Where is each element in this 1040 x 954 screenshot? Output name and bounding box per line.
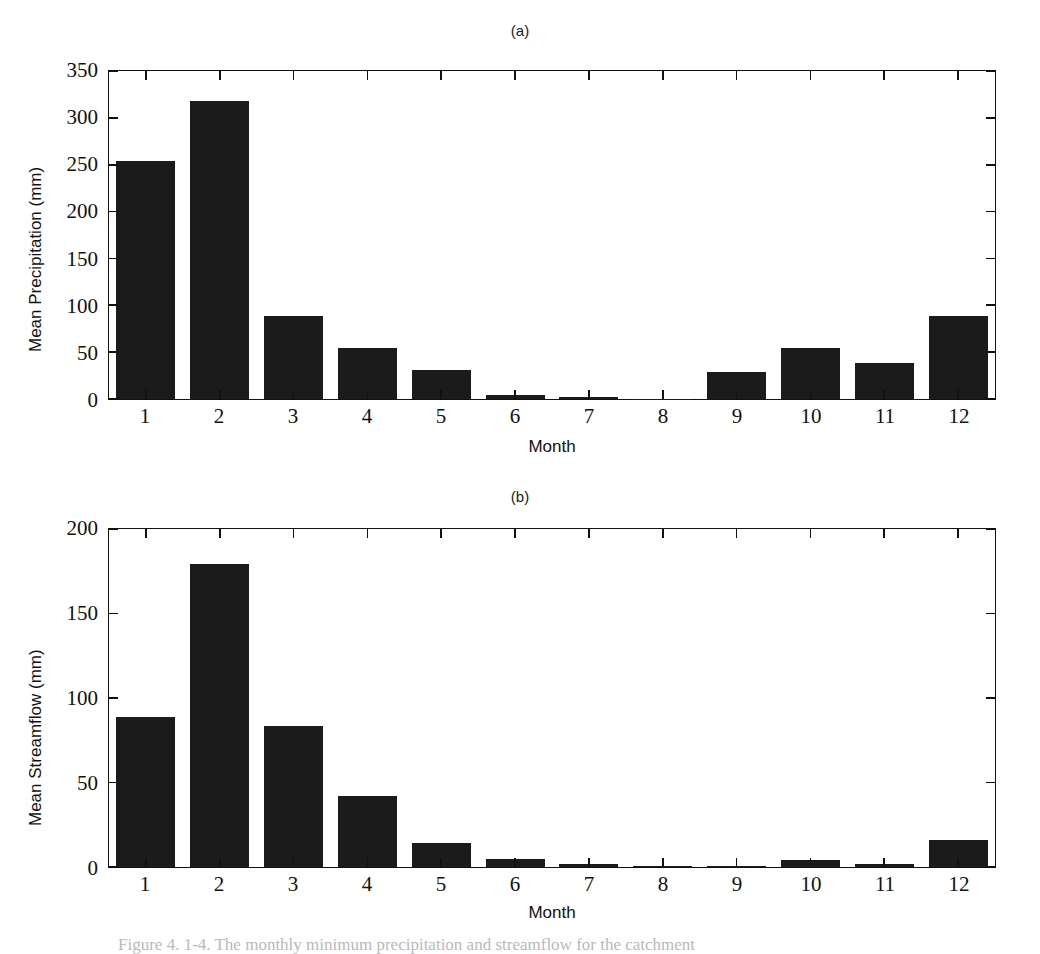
y-tick-left-150 <box>109 258 118 260</box>
x-tick-label-10: 10 <box>801 872 822 897</box>
y-tick-left-0 <box>109 398 118 400</box>
x-tick-bottom-1 <box>145 858 147 867</box>
x-tick-bottom-10 <box>810 858 812 867</box>
y-tick-label-100: 100 <box>67 686 99 711</box>
x-tick-bottom-4 <box>367 858 369 867</box>
x-tick-label-11: 11 <box>875 404 895 429</box>
x-tick-label-6: 6 <box>510 404 521 429</box>
x-tick-label-4: 4 <box>362 872 373 897</box>
y-tick-right-300 <box>986 117 995 119</box>
x-tick-label-2: 2 <box>214 404 225 429</box>
x-tick-top-2 <box>219 71 221 80</box>
panel-label-b: (b) <box>0 488 1040 505</box>
x-tick-top-1 <box>145 529 147 538</box>
y-tick-label-200: 200 <box>67 199 99 224</box>
y-axis-tick-labels-b: 050100150200 <box>2 528 98 868</box>
x-tick-top-11 <box>883 529 885 538</box>
y-axis-tick-labels-a: 050100150200250300350 <box>2 70 98 400</box>
x-tick-bottom-10 <box>810 390 812 399</box>
x-tick-label-5: 5 <box>436 404 447 429</box>
x-tick-label-7: 7 <box>584 404 595 429</box>
figure-container: (a) 050100150200250300350 Mean Precipita… <box>0 0 1040 954</box>
x-tick-bottom-6 <box>514 390 516 399</box>
y-tick-left-200 <box>109 211 118 213</box>
y-tick-right-100 <box>986 304 995 306</box>
y-tick-label-150: 150 <box>67 246 99 271</box>
panel-label-a: (a) <box>0 22 1040 39</box>
y-tick-right-0 <box>986 398 995 400</box>
y-tick-left-50 <box>109 351 118 353</box>
x-tick-bottom-9 <box>736 390 738 399</box>
x-tick-label-11: 11 <box>875 872 895 897</box>
x-tick-top-11 <box>883 71 885 80</box>
x-tick-top-10 <box>810 529 812 538</box>
y-axis-title-a: Mean Precipitation (mm) <box>26 167 46 352</box>
x-tick-label-12: 12 <box>949 404 970 429</box>
x-tick-top-5 <box>440 71 442 80</box>
y-tick-left-150 <box>109 613 118 615</box>
x-tick-label-6: 6 <box>510 872 521 897</box>
x-tick-bottom-3 <box>293 858 295 867</box>
y-tick-left-0 <box>109 866 118 868</box>
x-tick-label-4: 4 <box>362 404 373 429</box>
x-tick-label-5: 5 <box>436 872 447 897</box>
x-tick-bottom-11 <box>883 858 885 867</box>
y-tick-label-0: 0 <box>88 856 99 881</box>
x-tick-label-3: 3 <box>288 872 299 897</box>
y-tick-right-200 <box>986 528 995 530</box>
y-tick-right-100 <box>986 697 995 699</box>
x-tick-top-10 <box>810 71 812 80</box>
y-tick-label-50: 50 <box>77 771 98 796</box>
y-tick-right-150 <box>986 613 995 615</box>
chart-panel-a: (a) 050100150200250300350 Mean Precipita… <box>0 0 1040 470</box>
chart-panel-b: (b) 050100150200 Mean Streamflow (mm) 12… <box>0 470 1040 900</box>
x-axis-tick-labels-b: 123456789101112 <box>108 872 996 904</box>
x-tick-label-12: 12 <box>949 872 970 897</box>
bar-3 <box>264 726 323 867</box>
x-tick-top-9 <box>736 71 738 80</box>
x-tick-bottom-8 <box>662 858 664 867</box>
y-tick-label-100: 100 <box>67 293 99 318</box>
x-tick-top-8 <box>662 71 664 80</box>
x-tick-top-2 <box>219 529 221 538</box>
x-tick-top-4 <box>367 71 369 80</box>
bar-4 <box>338 796 397 867</box>
x-tick-top-3 <box>293 529 295 538</box>
x-tick-bottom-11 <box>883 390 885 399</box>
x-tick-label-8: 8 <box>658 404 669 429</box>
y-tick-right-50 <box>986 782 995 784</box>
bar-1 <box>116 161 175 399</box>
x-tick-top-12 <box>957 71 959 80</box>
x-tick-top-8 <box>662 529 664 538</box>
y-tick-label-150: 150 <box>67 601 99 626</box>
y-tick-label-300: 300 <box>67 105 99 130</box>
bar-series-b <box>109 529 995 867</box>
x-tick-bottom-8 <box>662 390 664 399</box>
x-tick-label-7: 7 <box>584 872 595 897</box>
x-tick-bottom-9 <box>736 858 738 867</box>
x-tick-bottom-5 <box>440 390 442 399</box>
x-tick-top-5 <box>440 529 442 538</box>
bar-3 <box>264 316 323 399</box>
x-tick-top-1 <box>145 71 147 80</box>
x-tick-label-3: 3 <box>288 404 299 429</box>
x-axis-title-b: Month <box>108 903 996 923</box>
y-tick-left-300 <box>109 117 118 119</box>
figure-caption: Figure 4. 1-4. The monthly minimum preci… <box>118 934 998 954</box>
x-tick-bottom-5 <box>440 858 442 867</box>
bar-1 <box>116 717 175 867</box>
x-tick-bottom-12 <box>957 858 959 867</box>
x-tick-bottom-2 <box>219 858 221 867</box>
x-tick-top-9 <box>736 529 738 538</box>
y-tick-label-200: 200 <box>67 516 99 541</box>
x-axis-tick-labels-a: 123456789101112 <box>108 404 996 436</box>
y-tick-left-200 <box>109 528 118 530</box>
y-tick-right-50 <box>986 351 995 353</box>
x-tick-bottom-1 <box>145 390 147 399</box>
y-tick-right-350 <box>986 70 995 72</box>
x-tick-label-2: 2 <box>214 872 225 897</box>
x-tick-label-9: 9 <box>732 404 743 429</box>
x-tick-bottom-7 <box>588 390 590 399</box>
y-tick-left-100 <box>109 697 118 699</box>
x-tick-bottom-2 <box>219 390 221 399</box>
